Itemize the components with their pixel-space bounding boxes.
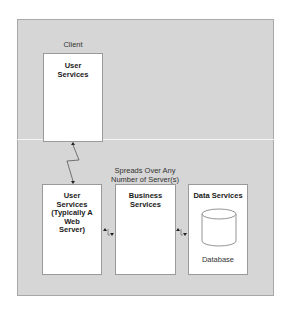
client-user-services-box: User Services <box>43 53 103 142</box>
client-user-services-title: User Services <box>44 62 102 79</box>
server-user-services-box: User Services (Typically A Web Server) <box>42 184 102 275</box>
server-user-services-title: User Services (Typically A Web Server) <box>43 192 101 235</box>
business-services-box: Business Services <box>115 184 176 275</box>
server-tier-label: Spreads Over Any Number of Server(s) <box>100 166 190 184</box>
business-services-title: Business Services <box>116 192 175 209</box>
database-label: Database <box>189 255 247 264</box>
data-services-box: Data Services Database <box>188 184 248 275</box>
client-tier-label: Client <box>53 40 93 49</box>
